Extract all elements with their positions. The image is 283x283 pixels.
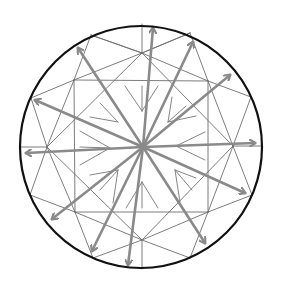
arrow-down-left-icon — [52, 147, 143, 219]
facet-line — [91, 35, 142, 53]
facet-line — [47, 147, 75, 212]
diamond-facet-diagram: Diamond facet diagram with light reflect… — [0, 0, 283, 283]
facet-line — [142, 240, 190, 258]
facet-line — [47, 53, 142, 147]
reflection-mark — [80, 131, 110, 148]
arrow-left-icon — [26, 147, 143, 153]
facet-line — [142, 146, 233, 240]
light-arrows — [26, 28, 255, 265]
reflection-mark — [142, 182, 158, 208]
facet-line — [93, 240, 142, 258]
facet-line — [74, 80, 208, 81]
reflection-mark — [142, 86, 158, 111]
diagram-canvas — [0, 0, 283, 283]
facet-line — [30, 147, 47, 195]
facet-line — [142, 33, 190, 53]
reflection-mark — [125, 86, 142, 111]
reflection-mark — [168, 116, 196, 122]
arrow-up-right-icon — [143, 75, 230, 147]
facet-line — [74, 80, 75, 212]
reflection-mark — [126, 182, 142, 208]
reflection-mark — [168, 97, 172, 122]
facet-line — [142, 212, 208, 240]
facet-line — [233, 97, 251, 146]
reflection-mark — [176, 146, 205, 160]
facet-line — [142, 53, 233, 146]
facet-line — [47, 147, 142, 240]
